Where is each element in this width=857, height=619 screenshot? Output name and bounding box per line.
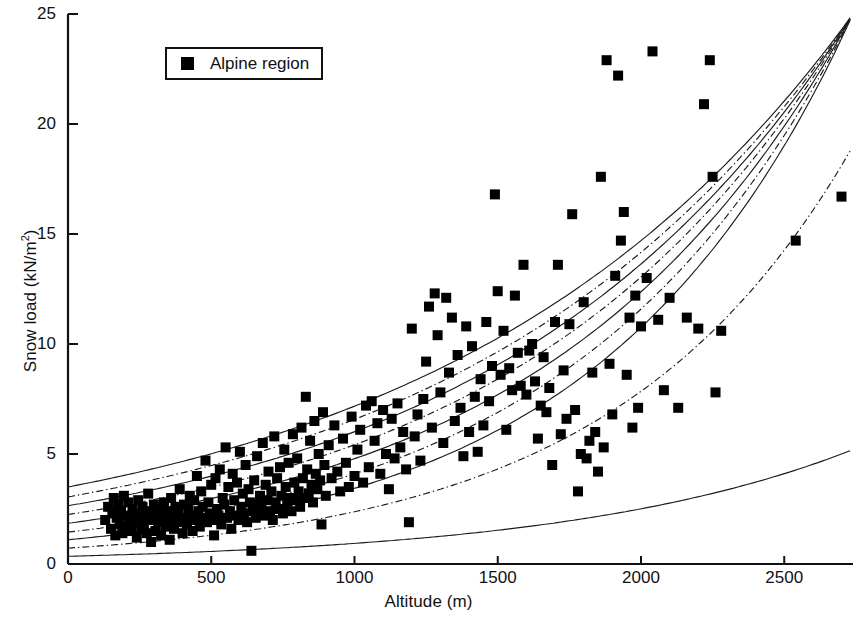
data-point: [527, 339, 537, 349]
data-point: [481, 317, 491, 327]
legend: Alpine region: [165, 47, 323, 80]
data-point: [165, 535, 175, 545]
data-point: [305, 436, 315, 446]
data-point: [324, 440, 334, 450]
data-point: [245, 497, 255, 507]
data-point: [605, 359, 615, 369]
data-point: [547, 460, 557, 470]
data-point: [478, 420, 488, 430]
data-point: [590, 427, 600, 437]
data-point: [143, 489, 153, 499]
data-point: [289, 478, 299, 488]
data-point: [453, 350, 463, 360]
data-point: [364, 462, 374, 472]
data-point: [321, 491, 331, 501]
data-point: [582, 453, 592, 463]
data-point: [564, 319, 574, 329]
data-point: [252, 451, 262, 461]
data-point: [607, 409, 617, 419]
legend-entry-label: Alpine region: [210, 54, 309, 74]
data-point: [241, 460, 251, 470]
data-point: [424, 302, 434, 312]
data-point: [447, 313, 457, 323]
x-tick-label: 1500: [479, 568, 517, 588]
data-point: [302, 464, 312, 474]
data-point: [544, 383, 554, 393]
data-point: [203, 497, 213, 507]
data-point: [464, 427, 474, 437]
data-point: [268, 515, 278, 525]
data-point: [178, 528, 188, 538]
data-point: [567, 209, 577, 219]
data-point: [378, 405, 388, 415]
data-point: [192, 471, 202, 481]
data-point: [335, 486, 345, 496]
data-point: [301, 392, 311, 402]
data-point: [347, 412, 357, 422]
data-point: [473, 447, 483, 457]
data-point: [355, 425, 365, 435]
data-point: [215, 464, 225, 474]
data-point: [587, 368, 597, 378]
x-tick-label: 2500: [765, 568, 803, 588]
data-point: [619, 207, 629, 217]
y-axis-title: Snow load (kN/m2): [19, 21, 41, 581]
data-point: [499, 326, 509, 336]
data-point: [610, 271, 620, 281]
snow-load-altitude-chart: 05001000150020002500 0510152025 Altitude…: [0, 0, 857, 619]
data-point: [602, 55, 612, 65]
data-point: [387, 414, 397, 424]
data-point: [156, 530, 166, 540]
data-point: [304, 489, 314, 499]
data-point: [415, 456, 425, 466]
data-point: [510, 291, 520, 301]
data-point: [584, 436, 594, 446]
data-point: [281, 482, 291, 492]
data-point: [705, 55, 715, 65]
data-point: [430, 288, 440, 298]
data-point: [350, 471, 360, 481]
data-point: [559, 365, 569, 375]
data-point: [456, 403, 466, 413]
plot-canvas: [0, 0, 857, 619]
data-point: [295, 502, 305, 512]
data-point: [550, 317, 560, 327]
y-axis-title-base: Snow load (kN/m: [21, 241, 40, 372]
data-point: [166, 493, 176, 503]
data-point: [284, 458, 294, 468]
data-point: [791, 236, 801, 246]
data-point: [308, 497, 318, 507]
data-point: [209, 530, 219, 540]
x-tick-label: 500: [197, 568, 225, 588]
data-point: [562, 414, 572, 424]
data-point: [599, 442, 609, 452]
data-point: [553, 260, 563, 270]
data-point: [648, 46, 658, 56]
data-point: [438, 438, 448, 448]
curve-4: [68, 19, 850, 515]
data-point: [501, 425, 511, 435]
x-axis-ticks: [68, 556, 784, 564]
data-point: [332, 467, 342, 477]
data-point: [653, 315, 663, 325]
data-point: [381, 449, 391, 459]
data-point: [278, 508, 288, 518]
data-point: [132, 533, 142, 543]
data-point: [352, 445, 362, 455]
data-point: [146, 537, 156, 547]
data-point: [444, 368, 454, 378]
data-point: [470, 392, 480, 402]
data-point: [196, 486, 206, 496]
data-point: [384, 484, 394, 494]
data-point: [427, 423, 437, 433]
data-point: [413, 409, 423, 419]
data-point: [258, 438, 268, 448]
data-point: [275, 462, 285, 472]
data-point: [633, 403, 643, 413]
data-point: [630, 291, 640, 301]
data-point: [211, 473, 221, 483]
data-point: [338, 434, 348, 444]
data-point: [579, 297, 589, 307]
data-point: [461, 321, 471, 331]
data-point: [235, 447, 245, 457]
